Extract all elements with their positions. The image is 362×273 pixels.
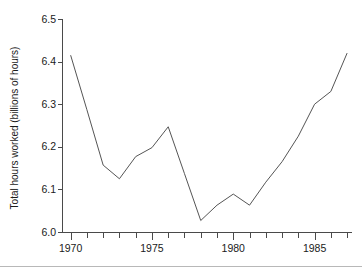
x-axis-tick-labels: 1970197519801985 — [59, 242, 326, 254]
footer-divider — [0, 266, 362, 267]
line-chart: Total hours worked (billions of hours) 6… — [0, 0, 362, 273]
x-tick-label: 1975 — [140, 242, 164, 254]
x-tick-label: 1985 — [303, 242, 327, 254]
y-axis-tick-marks — [58, 20, 63, 233]
y-tick-label: 6.2 — [41, 140, 56, 152]
y-tick-label: 6.5 — [41, 13, 56, 25]
y-tick-label: 6.1 — [41, 183, 56, 195]
chart-figure: Total hours worked (billions of hours) 6… — [0, 0, 362, 273]
y-tick-label: 6.0 — [41, 226, 56, 238]
x-tick-label: 1970 — [59, 242, 83, 254]
y-tick-label: 6.3 — [41, 98, 56, 110]
x-axis-tick-marks — [72, 233, 348, 240]
y-tick-label: 6.4 — [41, 55, 56, 67]
data-series-line — [71, 53, 347, 220]
y-axis-title: Total hours worked (billions of hours) — [9, 47, 20, 210]
y-axis-tick-labels: 6.06.16.26.36.46.5 — [41, 13, 56, 238]
x-tick-label: 1980 — [222, 242, 246, 254]
